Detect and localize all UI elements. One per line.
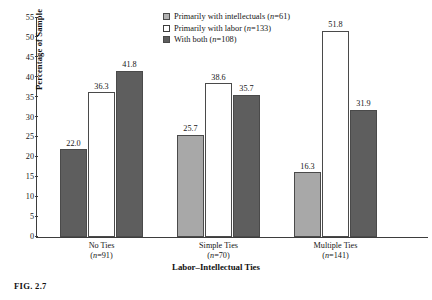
bar-rect [294,172,321,237]
x-category-name: Simple Ties [199,241,238,250]
y-tick-label: 5 [10,213,34,221]
legend-label: Primarily with labor (n=133) [174,23,271,35]
x-axis-title: Labor–Intellectual Ties [0,262,432,272]
chart-legend: Primarily with intellectuals (n=61)Prima… [163,11,290,46]
bar[interactable]: 31.9 [350,110,377,237]
y-tick-label: 45 [10,54,34,62]
bar[interactable]: 41.8 [116,71,143,237]
bar-rect [205,83,232,237]
bar-rect [177,135,204,237]
legend-label: Primarily with intellectuals (n=61) [174,11,290,23]
bar-value-label: 35.7 [239,84,253,93]
bar[interactable]: 38.6 [205,83,232,237]
bar[interactable]: 16.3 [294,172,321,237]
x-category-name: No Ties [89,241,115,250]
x-category-count: (n=70) [159,251,279,261]
bar[interactable]: 22.0 [60,149,87,237]
bar-rect [322,31,349,237]
bar-value-label: 16.3 [300,162,314,171]
bar-rect [233,95,260,237]
y-tick-label: 25 [10,133,34,141]
x-category-count: (n=91) [42,251,162,261]
legend-swatch-icon [163,36,170,43]
legend-swatch-icon [163,25,170,32]
bar-value-label: 36.3 [94,82,108,91]
x-category-label: Simple Ties(n=70) [159,241,279,260]
bar[interactable]: 25.7 [177,135,204,237]
y-tick-label: 40 [10,74,34,82]
bar-rect [88,92,115,237]
bar[interactable]: 35.7 [233,95,260,237]
bar-rect [116,71,143,237]
plot-area: 0510152025303540455055 22.036.341.825.73… [36,18,428,238]
x-category-name: Multiple Ties [314,241,358,250]
x-category-label: No Ties(n=91) [42,241,162,260]
bar[interactable]: 51.8 [322,31,349,237]
legend-swatch-icon [163,13,170,20]
legend-label: With both (n=108) [174,34,237,46]
y-tick-label: 20 [10,153,34,161]
y-tick-label: 35 [10,94,34,102]
y-tick-label: 10 [10,193,34,201]
bar-value-label: 41.8 [122,60,136,69]
bar-value-label: 25.7 [183,124,197,133]
bar-rect [60,149,87,237]
bar-value-label: 38.6 [211,73,225,82]
y-tick-label: 30 [10,114,34,122]
y-tick-label: 50 [10,34,34,42]
legend-item[interactable]: Primarily with labor (n=133) [163,23,290,35]
y-tick-label: 55 [10,14,34,22]
figure-2-7: 0510152025303540455055 22.036.341.825.73… [0,0,432,300]
bar[interactable]: 36.3 [88,92,115,237]
legend-item[interactable]: With both (n=108) [163,34,290,46]
x-category-count: (n=141) [276,251,396,261]
y-tick-label: 0 [10,233,34,241]
bar-groups: 22.036.341.825.738.635.716.351.831.9 [36,18,428,238]
bar-value-label: 31.9 [356,99,370,108]
x-category-label: Multiple Ties(n=141) [276,241,396,260]
y-axis-title: Percentage of Sample [34,0,44,90]
legend-item[interactable]: Primarily with intellectuals (n=61) [163,11,290,23]
figure-caption: FIG. 2.7 [14,281,47,291]
bar-value-label: 22.0 [66,139,80,148]
bar-rect [350,110,377,237]
bar-value-label: 51.8 [328,20,342,29]
y-tick-label: 15 [10,173,34,181]
